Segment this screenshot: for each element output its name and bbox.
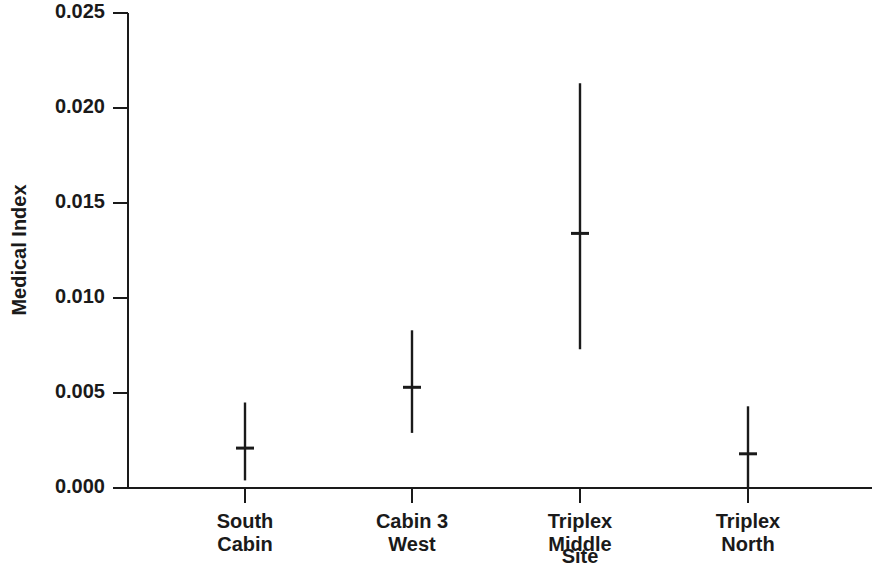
medical-index-error-bar-plot: 0.000 0.005 0.010 0.015 0.020 0.025 [0,0,872,567]
x-tick-label-line1: Triplex [548,510,612,532]
y-axis-title: Medical Index [8,184,30,315]
x-tick-label-line1: Triplex [716,510,780,532]
x-axis-title: Site [562,545,599,567]
x-tick-label-line2: Cabin [217,533,273,555]
y-tick-group: 0.015 [55,190,128,212]
y-tick-group: 0.010 [55,285,128,307]
chart-container: 0.000 0.005 0.010 0.015 0.020 0.025 [0,0,872,567]
y-tick-group: 0.000 [55,475,128,497]
y-tick-group: 0.025 [55,0,128,22]
x-tick-group: South Cabin [217,488,274,555]
x-axis-ticks: South Cabin Cabin 3 West Triplex Middle … [217,488,781,555]
error-bar-point [236,403,254,481]
y-tick-label: 0.000 [55,475,105,497]
x-tick-group: Cabin 3 West [376,488,448,555]
error-bar-point [571,83,589,349]
y-tick-label: 0.020 [55,95,105,117]
y-tick-label: 0.025 [55,0,105,22]
x-tick-label-line1: South [217,510,274,532]
y-tick-group: 0.020 [55,95,128,117]
data-series-layer [236,83,757,488]
y-tick-group: 0.005 [55,380,128,402]
error-bar-point [739,406,757,488]
y-tick-label: 0.010 [55,285,105,307]
x-tick-label-line2: West [388,533,436,555]
x-tick-group: Triplex North [716,488,780,555]
y-axis-ticks: 0.000 0.005 0.010 0.015 0.020 0.025 [55,0,128,497]
x-tick-label-line2: North [721,533,774,555]
y-tick-label: 0.005 [55,380,105,402]
x-tick-label-line1: Cabin 3 [376,510,448,532]
y-tick-label: 0.015 [55,190,105,212]
error-bar-point [403,330,421,433]
